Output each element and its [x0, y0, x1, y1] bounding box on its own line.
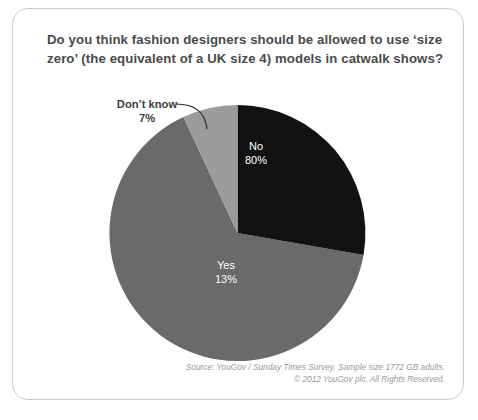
- footer-source: Source: YouGov / Sunday Times Survey. Sa…: [186, 361, 445, 373]
- pie-label-yes-name: Yes: [217, 259, 235, 271]
- screenshot-root: Do you think fashion designers should be…: [0, 0, 478, 420]
- chart-card: Do you think fashion designers should be…: [12, 8, 464, 400]
- pie-label-no: No 80%: [229, 140, 283, 167]
- pie-chart-svg: [13, 9, 478, 420]
- chart-footer: Source: YouGov / Sunday Times Survey. Sa…: [186, 361, 445, 385]
- pie-label-no-name: No: [249, 140, 263, 152]
- pie-label-dontknow: Don’t know 7%: [99, 97, 195, 125]
- pie-label-dontknow-value: 7%: [139, 112, 155, 124]
- pie-label-yes: Yes 13%: [199, 259, 253, 286]
- pie-chart: No 80% Yes 13% Don’t know 7%: [13, 9, 478, 420]
- pie-label-no-value: 80%: [245, 154, 267, 166]
- pie-slice-no[interactable]: [238, 105, 366, 255]
- pie-label-yes-value: 13%: [215, 273, 237, 285]
- footer-copyright: © 2012 YouGov plc. All Rights Reserved.: [186, 373, 445, 385]
- pie-label-dontknow-name: Don’t know: [117, 98, 177, 110]
